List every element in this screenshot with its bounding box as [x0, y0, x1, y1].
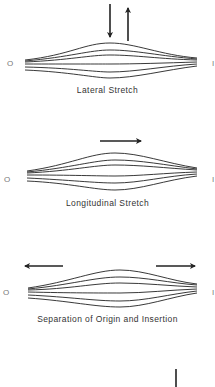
insertion-label: I [212, 288, 214, 297]
diagram-canvas [0, 0, 215, 387]
insertion-label: I [212, 59, 214, 68]
origin-label: O [7, 59, 13, 68]
caption-separation: Separation of Origin and Insertion [0, 314, 215, 324]
muscle-lateral [25, 43, 197, 78]
insertion-label: I [212, 175, 214, 184]
muscle-longitudinal [27, 153, 197, 190]
muscle-separation [28, 270, 197, 307]
caption-lateral-stretch: Lateral Stretch [0, 85, 215, 95]
caption-longitudinal-stretch: Longitudinal Stretch [0, 198, 215, 208]
origin-label: O [4, 175, 10, 184]
origin-label: O [3, 288, 9, 297]
